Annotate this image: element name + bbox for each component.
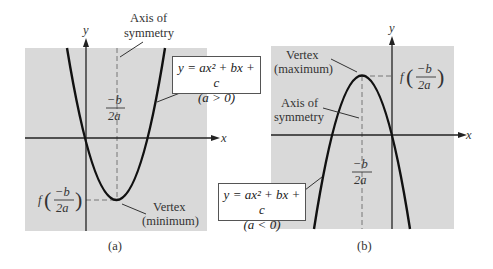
svg-text:−b: −b [55,185,70,199]
equation-a: y = ax² + bx + c [177,60,256,90]
svg-text:): ) [437,64,444,89]
equation-box-a: y = ax² + bx + c (a > 0) [172,56,261,94]
axis-of-symmetry-label-a-line2: symmetry [124,26,175,40]
y-axis-arrow-b [389,36,395,45]
x-axis-label-b: x [465,128,472,142]
x-axis-arrow-a [211,135,220,141]
condition-a: (a > 0) [177,90,256,105]
x-axis-label-a: x [220,131,227,145]
condition-b: (a < 0) [223,217,301,232]
vertex-label-a-line1: Vertex [153,200,186,214]
axis-of-symmetry-label-a-line1: Axis of [130,11,168,25]
caption-a: (a) [108,239,122,253]
vertex-y-label-a: f ( −b 2a ) [38,185,82,215]
svg-text:): ) [75,187,82,212]
svg-text:−b: −b [417,62,432,76]
svg-text:−b: −b [353,157,368,171]
axis-of-symmetry-label-b-line2: symmetry [274,110,325,124]
svg-text:(: ( [44,187,51,212]
y-axis-label-b: y [387,21,395,35]
vertex-label-a-line2: (minimum) [142,214,199,228]
svg-text:2a: 2a [354,173,367,187]
vertex-y-label-b: f ( −b 2a ) [400,62,444,92]
svg-text:(: ( [406,64,413,89]
axis-of-symmetry-label-b-line1: Axis of [281,96,319,110]
svg-text:2a: 2a [108,109,121,123]
equation-b: y = ax² + bx + c [223,187,301,217]
svg-text:2a: 2a [56,201,69,215]
svg-text:−b: −b [107,93,122,107]
caption-b: (b) [357,239,372,253]
equation-box-b: y = ax² + bx + c (a < 0) [218,183,306,221]
y-axis-label-a: y [81,23,89,37]
y-axis-arrow-a [83,38,89,47]
vertex-label-b-line1: Vertex [286,48,319,62]
svg-text:2a: 2a [418,78,431,92]
vertex-label-b-line2: (maximum) [274,62,333,76]
panel-a: y x Axis of symmetry Vertex (minimum) −b… [25,11,227,253]
